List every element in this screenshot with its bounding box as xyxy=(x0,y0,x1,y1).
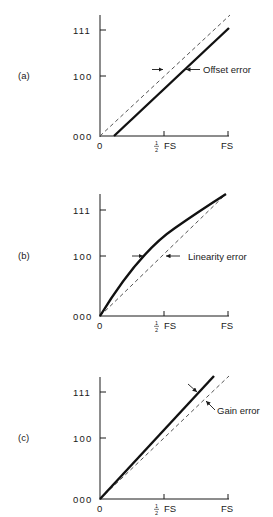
actual-transfer-line xyxy=(114,28,229,136)
x-tick-label-fs: FS xyxy=(221,140,233,151)
annotation-gain-error: Gain error xyxy=(217,405,260,416)
x-tick-label-zero: 0 xyxy=(97,503,102,514)
x-tick-label-half-fs: FS xyxy=(164,503,176,514)
y-tick-label: 100 xyxy=(73,433,92,444)
error-figure: (a) 111 100 000 0 1 2 FS FS Offset error… xyxy=(0,0,273,517)
y-tick-label: 100 xyxy=(73,71,92,82)
x-tick-label-fs: FS xyxy=(221,320,233,331)
half-denominator: 2 xyxy=(155,327,158,333)
y-tick-label: 000 xyxy=(73,131,92,142)
actual-transfer-line xyxy=(100,376,214,499)
panel-label: (a) xyxy=(18,70,30,81)
half-numerator: 1 xyxy=(155,140,158,146)
panel-label: (b) xyxy=(18,250,30,261)
half-denominator: 2 xyxy=(155,510,158,516)
annotation-linearity-error: Linearity error xyxy=(188,251,247,262)
panel-c-gain-error: (c) 111 100 000 0 1 2 FS FS Gain error xyxy=(18,376,260,516)
half-denominator: 2 xyxy=(155,147,158,153)
x-tick-label-half-fs: FS xyxy=(164,320,176,331)
arrow-diagonal-icon xyxy=(206,401,215,410)
x-tick-label-half-fs: FS xyxy=(164,140,176,151)
x-tick-label-zero: 0 xyxy=(97,140,102,151)
panel-a-offset-error: (a) 111 100 000 0 1 2 FS FS Offset error xyxy=(18,15,251,153)
arrow-diagonal-icon xyxy=(188,384,197,392)
y-tick-label: 111 xyxy=(73,205,91,216)
y-tick-label: 111 xyxy=(73,387,91,398)
ideal-transfer-line xyxy=(100,15,230,136)
ideal-transfer-line xyxy=(100,376,229,499)
y-tick-label: 100 xyxy=(73,251,92,262)
panel-b-linearity-error: (b) 111 100 000 0 1 2 FS FS Linearity er… xyxy=(18,194,247,333)
x-tick-label-zero: 0 xyxy=(97,320,102,331)
y-tick-label: 000 xyxy=(73,311,92,322)
panel-label: (c) xyxy=(18,432,29,443)
half-numerator: 1 xyxy=(155,320,158,326)
half-numerator: 1 xyxy=(155,503,158,509)
y-tick-label: 000 xyxy=(73,494,92,505)
x-tick-label-fs: FS xyxy=(221,503,233,514)
y-tick-label: 111 xyxy=(73,25,91,36)
annotation-offset-error: Offset error xyxy=(203,64,251,75)
